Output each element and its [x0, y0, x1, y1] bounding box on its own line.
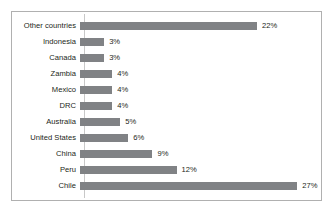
bar-value-label: 9%: [157, 150, 168, 158]
bar-track: 22%: [80, 18, 321, 34]
bar-row: Zambia4%: [12, 66, 321, 82]
bar-row: Australia5%: [12, 114, 321, 130]
bar-category-label: Mexico: [12, 86, 80, 94]
bar-category-label: Chile: [12, 182, 80, 190]
bar-value-label: 27%: [302, 182, 317, 190]
bar-row: United States6%: [12, 130, 321, 146]
bar-category-label: Canada: [12, 54, 80, 62]
bar-row: DRC4%: [12, 98, 321, 114]
bar-track: 3%: [80, 50, 321, 66]
bar-value-label: 3%: [109, 54, 120, 62]
bar-track: 4%: [80, 82, 321, 98]
bar-category-label: Peru: [12, 166, 80, 174]
bar-row: Other countries22%: [12, 18, 321, 34]
bar-category-label: Australia: [12, 118, 80, 126]
bar-row: Peru12%: [12, 162, 321, 178]
bar: [80, 22, 257, 30]
bar-track: 3%: [80, 34, 321, 50]
bar: [80, 134, 128, 142]
bar-value-label: 22%: [262, 22, 277, 30]
bar: [80, 70, 112, 78]
bar-category-label: Indonesia: [12, 38, 80, 46]
bar-row: Canada3%: [12, 50, 321, 66]
bar-track: 9%: [80, 146, 321, 162]
chart-plot-area: Other countries22%Indonesia3%Canada3%Zam…: [12, 12, 321, 200]
bar-rows-container: Other countries22%Indonesia3%Canada3%Zam…: [12, 18, 321, 194]
bar: [80, 86, 112, 94]
bar-value-label: 12%: [182, 166, 197, 174]
bar-track: 6%: [80, 130, 321, 146]
bar-row: Chile27%: [12, 178, 321, 194]
bar-value-label: 4%: [117, 102, 128, 110]
bar: [80, 38, 104, 46]
bar: [80, 150, 152, 158]
bar: [80, 102, 112, 110]
bar-track: 4%: [80, 98, 321, 114]
bar-value-label: 4%: [117, 86, 128, 94]
bar-value-label: 5%: [125, 118, 136, 126]
bar-category-label: United States: [12, 134, 80, 142]
bar-row: Indonesia3%: [12, 34, 321, 50]
bar-value-label: 3%: [109, 38, 120, 46]
bar-category-label: Zambia: [12, 70, 80, 78]
bar-category-label: Other countries: [12, 22, 80, 30]
bar: [80, 166, 177, 174]
bar-row: Mexico4%: [12, 82, 321, 98]
bar-row: China9%: [12, 146, 321, 162]
bar: [80, 54, 104, 62]
bar-category-label: China: [12, 150, 80, 158]
bar-track: 12%: [80, 162, 321, 178]
bar-value-label: 6%: [133, 134, 144, 142]
chart-frame: Other countries22%Indonesia3%Canada3%Zam…: [11, 11, 322, 201]
bar-track: 4%: [80, 66, 321, 82]
bar-category-label: DRC: [12, 102, 80, 110]
bar: [80, 118, 120, 126]
bar-track: 27%: [80, 178, 321, 194]
bar-track: 5%: [80, 114, 321, 130]
bar: [80, 182, 297, 190]
bar-value-label: 4%: [117, 70, 128, 78]
